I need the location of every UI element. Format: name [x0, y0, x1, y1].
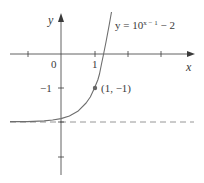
y-tick-label-minus-1: −1 [40, 83, 52, 94]
point-annotation: (1, −1) [101, 83, 131, 94]
point-marker [93, 86, 97, 90]
equation-prefix: y = 10 [115, 19, 143, 31]
x-axis-label: x [186, 61, 191, 73]
equation-suffix: − 2 [158, 19, 175, 31]
equation-label: y = 10x − 1 − 2 [115, 20, 175, 31]
x-tick-label-1: 1 [92, 59, 98, 70]
y-axis-label: y [48, 14, 53, 26]
origin-label: 0 [51, 59, 57, 70]
x-axis-arrow-icon [187, 51, 195, 57]
equation-exponent: x − 1 [143, 19, 157, 27]
y-axis-arrow-icon [58, 13, 64, 22]
